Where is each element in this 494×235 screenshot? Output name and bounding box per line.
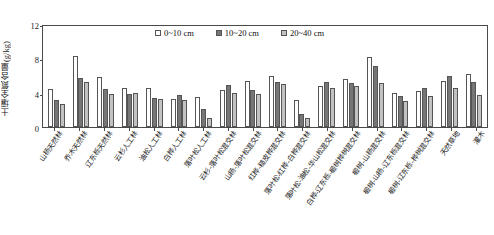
x-axis-tick-mark bbox=[253, 128, 254, 131]
bar bbox=[305, 118, 310, 127]
bar bbox=[324, 82, 329, 127]
bar bbox=[447, 76, 452, 127]
bar bbox=[343, 79, 348, 127]
bar bbox=[281, 84, 286, 127]
x-axis-tick-mark bbox=[203, 128, 204, 131]
bar-group bbox=[388, 26, 413, 127]
bar-group bbox=[437, 26, 462, 127]
bar-group bbox=[118, 26, 143, 127]
bar-group bbox=[191, 26, 216, 127]
bar bbox=[471, 82, 476, 127]
x-axis-tick-mark bbox=[476, 128, 477, 131]
x-axis-tick-label: 天然草地 bbox=[439, 130, 462, 158]
bar-group bbox=[44, 26, 69, 127]
x-axis-tick-mark bbox=[178, 128, 179, 131]
bar bbox=[275, 82, 280, 127]
x-axis-tick-mark bbox=[426, 128, 427, 131]
bar-groups bbox=[43, 26, 487, 127]
bar-group bbox=[265, 26, 290, 127]
bar-group bbox=[241, 26, 266, 127]
bar bbox=[245, 81, 250, 127]
bar bbox=[146, 88, 151, 127]
bar bbox=[84, 82, 89, 127]
bar-group bbox=[290, 26, 315, 127]
bar bbox=[78, 78, 83, 127]
bar-group bbox=[167, 26, 192, 127]
x-axis-tick-label: 白桦人工林 bbox=[162, 130, 189, 163]
x-axis-tick-label: 椴树-辽东栎-桦树混交林 bbox=[387, 130, 436, 196]
bar bbox=[403, 101, 408, 127]
x-axis-tick-mark bbox=[54, 128, 55, 131]
bar bbox=[207, 118, 212, 127]
bar-group bbox=[216, 26, 241, 127]
legend-item: 0~10 cm bbox=[155, 28, 194, 38]
bar bbox=[220, 90, 225, 127]
x-axis-tick-mark bbox=[79, 128, 80, 131]
bar bbox=[127, 94, 132, 127]
bar bbox=[133, 93, 138, 127]
bar bbox=[330, 88, 335, 127]
x-axis-tick-label: 椴树-山杨-辽东栎混交林 bbox=[362, 130, 411, 196]
chart-figure: 土壤全氮含量(g/kg) 04812 0~10 cm10~20 cm20~40 … bbox=[0, 0, 494, 235]
x-axis-tick-label: 油松人工林 bbox=[137, 130, 164, 163]
bar bbox=[195, 97, 200, 127]
bar bbox=[250, 90, 255, 127]
x-axis-tick-mark bbox=[277, 128, 278, 131]
bar-group bbox=[363, 26, 388, 127]
bar bbox=[441, 81, 446, 127]
bar bbox=[152, 98, 157, 127]
bar bbox=[171, 99, 176, 127]
x-axis-labels: 山杨天然林乔木天然林辽东栎天然林云杉人工林油松人工林白桦人工林落叶松人工林云杉-… bbox=[42, 128, 488, 233]
bar-group bbox=[69, 26, 94, 127]
bar bbox=[97, 77, 102, 127]
legend-swatch bbox=[281, 30, 287, 36]
x-axis-tick-mark bbox=[228, 128, 229, 131]
chart-legend: 0~10 cm10~20 cm20~40 cm bbox=[155, 28, 324, 38]
bar bbox=[60, 104, 65, 127]
bar bbox=[466, 74, 471, 127]
x-axis-tick-mark bbox=[352, 128, 353, 131]
x-axis-tick-label: 山杨天然林 bbox=[38, 130, 65, 163]
bar bbox=[226, 85, 231, 127]
legend-item: 20~40 cm bbox=[281, 28, 324, 38]
bar bbox=[54, 100, 59, 127]
bar bbox=[232, 93, 237, 127]
bar bbox=[367, 57, 372, 127]
bar bbox=[428, 96, 433, 127]
bar bbox=[158, 99, 163, 127]
bar bbox=[398, 96, 403, 127]
x-axis-tick-label: 灌木 bbox=[472, 130, 487, 146]
x-axis-tick-label: 乔木天然林 bbox=[63, 130, 90, 163]
x-axis-tick-mark bbox=[327, 128, 328, 131]
bar-group bbox=[412, 26, 437, 127]
bar-group bbox=[339, 26, 364, 127]
x-axis-tick-mark bbox=[451, 128, 452, 131]
bar bbox=[373, 66, 378, 127]
plot-area: 04812 bbox=[42, 25, 488, 128]
bar bbox=[122, 88, 127, 127]
legend-label: 0~10 cm bbox=[164, 28, 194, 38]
bar-group bbox=[93, 26, 118, 127]
x-axis-tick-label: 落叶松-红桦-白桦混交林 bbox=[263, 130, 312, 196]
x-axis-tick-mark bbox=[377, 128, 378, 131]
bar-group bbox=[314, 26, 339, 127]
bar bbox=[318, 86, 323, 127]
legend-swatch bbox=[216, 30, 222, 36]
bar bbox=[294, 100, 299, 127]
legend-item: 10~20 cm bbox=[216, 28, 259, 38]
bar bbox=[416, 91, 421, 127]
bar bbox=[201, 109, 206, 127]
legend-swatch bbox=[155, 30, 161, 36]
bar bbox=[299, 114, 304, 127]
bar bbox=[103, 89, 108, 127]
legend-label: 20~40 cm bbox=[290, 28, 324, 38]
bar bbox=[354, 86, 359, 127]
bar bbox=[422, 88, 427, 127]
bar bbox=[177, 95, 182, 127]
x-axis-tick-mark bbox=[401, 128, 402, 131]
bar bbox=[269, 76, 274, 128]
x-axis-tick-mark bbox=[302, 128, 303, 131]
bar bbox=[182, 100, 187, 127]
bar bbox=[379, 83, 384, 127]
y-axis-title: 土壤全氮含量(g/kg) bbox=[2, 24, 16, 134]
